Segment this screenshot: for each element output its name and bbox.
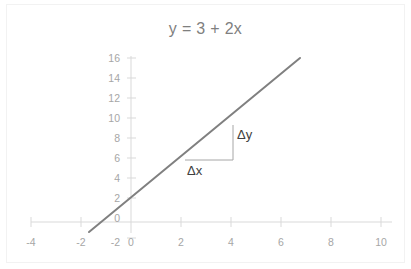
- y-tick-label-4: 4: [98, 172, 120, 184]
- chart-figure: y = 3 + 2x: [0, 0, 411, 269]
- plot-area: [0, 0, 411, 269]
- x-tick-label-2: 2: [167, 236, 195, 248]
- y-tick-label-10: 10: [98, 112, 120, 124]
- x-tick-label-6: 6: [267, 236, 295, 248]
- y-tick-label-6: 6: [98, 152, 120, 164]
- delta-y-label: Δy: [237, 127, 252, 142]
- x-tick-label-4: 4: [217, 236, 245, 248]
- x-tick-label-neg4: -4: [17, 236, 45, 248]
- data-line-series: [89, 58, 300, 232]
- x-tick-label-8: 8: [317, 236, 345, 248]
- x-tick-label-0: 0: [117, 236, 145, 248]
- y-tick-label-8: 8: [98, 132, 120, 144]
- y-tick-label-2: 2: [98, 192, 120, 204]
- x-tick-label-neg2: -2: [67, 236, 95, 248]
- y-tick-label-0: 0: [98, 212, 120, 224]
- x-tick-label-10: 10: [367, 236, 395, 248]
- y-tick-label-16: 16: [98, 52, 120, 64]
- y-tick-label-12: 12: [98, 92, 120, 104]
- delta-x-label: Δx: [187, 163, 202, 178]
- y-tick-label-14: 14: [98, 72, 120, 84]
